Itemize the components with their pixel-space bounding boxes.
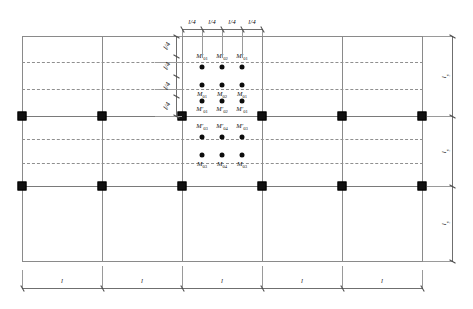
bottom-extension-line <box>102 266 103 288</box>
moment-label-row4-col3: M′03 <box>236 123 247 132</box>
moment-dot <box>220 135 225 140</box>
figure-canvas: M′01 M′02 M′01 M01 M02 M01 M′01 M′02 M′0… <box>0 0 473 309</box>
moment-dot <box>200 99 205 104</box>
moment-dot <box>220 83 225 88</box>
bottom-dimension-label-3: l <box>221 277 223 285</box>
gridline-vertical-1 <box>22 36 23 262</box>
moment-label-row4-col2: M′04 <box>216 123 227 132</box>
gridline-vertical-4 <box>262 36 263 262</box>
moment-dot <box>200 153 205 158</box>
column-node <box>178 182 187 191</box>
column-node <box>258 182 267 191</box>
top-extension-line <box>202 29 203 58</box>
moment-dot <box>200 135 205 140</box>
right-dimension-label-1: ly <box>440 74 449 78</box>
column-node <box>338 112 347 121</box>
moment-label-row5-col2: M04 <box>217 161 227 170</box>
top-extension-line <box>242 29 243 58</box>
right-extension-line <box>427 116 452 117</box>
left-dimension-label-1: l/4 <box>162 41 173 51</box>
gridline-horizontal-beam-1 <box>22 116 423 117</box>
right-dimension-line <box>452 36 453 262</box>
column-node <box>418 112 427 121</box>
column-node <box>18 112 27 121</box>
gridline-vertical-2 <box>102 36 103 262</box>
bottom-dimension-label-4: l <box>301 277 303 285</box>
gridline-vertical-6 <box>422 36 423 262</box>
moment-dot <box>220 153 225 158</box>
gridline-horizontal-beam-2 <box>22 186 423 187</box>
moment-label-row3-col3: M′01 <box>236 106 247 115</box>
top-dimension-label-3: l/4 <box>228 18 235 26</box>
right-dimension-label-2: ly <box>440 149 449 153</box>
top-dimension-label-4: l/4 <box>248 18 255 26</box>
moment-dot <box>240 153 245 158</box>
moment-dot <box>220 99 225 104</box>
top-dimension-label-2: l/4 <box>208 18 215 26</box>
column-node <box>18 182 27 191</box>
moment-label-row5-col3: M03 <box>237 161 247 170</box>
column-node <box>258 112 267 121</box>
moment-dot <box>240 83 245 88</box>
bottom-dimension-label-1: l <box>61 277 63 285</box>
gridline-vertical-3 <box>182 36 183 262</box>
moment-dot <box>240 99 245 104</box>
moment-label-row4-col1: M′03 <box>196 123 207 132</box>
moment-dot <box>220 65 225 70</box>
bottom-extension-line <box>262 266 263 288</box>
bottom-dimension-label-5: l <box>381 277 383 285</box>
bottom-extension-line <box>22 270 23 288</box>
moment-label-row5-col1: M03 <box>197 161 207 170</box>
top-extension-line <box>222 29 223 58</box>
moment-label-row3-col2: M′02 <box>216 106 227 115</box>
moment-label-row3-col1: M′01 <box>196 106 207 115</box>
moment-dot <box>240 135 245 140</box>
column-node <box>338 182 347 191</box>
bottom-dimension-line <box>22 288 423 289</box>
bottom-extension-line <box>342 266 343 288</box>
bottom-extension-line <box>182 266 183 288</box>
left-dimension-label-4: l/4 <box>162 101 173 111</box>
moment-dot <box>200 83 205 88</box>
gridline-vertical-5 <box>342 36 343 262</box>
moment-dot <box>240 65 245 70</box>
top-dimension-label-1: l/4 <box>188 18 195 26</box>
right-dimension-label-3: ly <box>440 221 449 225</box>
column-node <box>98 112 107 121</box>
right-extension-line <box>423 36 452 37</box>
bottom-extension-line <box>422 270 423 288</box>
dashed-line-1 <box>22 62 423 63</box>
bottom-dimension-label-2: l <box>141 277 143 285</box>
right-extension-line <box>423 261 452 262</box>
moment-dot <box>200 65 205 70</box>
dimension-tick <box>260 26 264 33</box>
gridline-horizontal-bottom <box>22 261 423 262</box>
column-node <box>418 182 427 191</box>
right-extension-line <box>427 186 452 187</box>
column-node <box>98 182 107 191</box>
